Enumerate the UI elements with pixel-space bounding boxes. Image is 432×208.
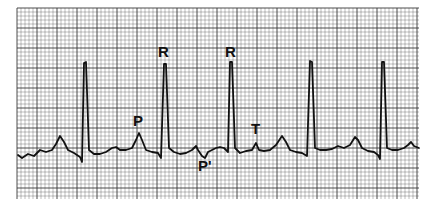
- label-p-prime: P': [198, 158, 212, 173]
- label-r-1: R: [158, 44, 169, 59]
- ecg-strip: [0, 0, 432, 208]
- label-r-2: R: [225, 44, 236, 59]
- ecg-grid: [17, 8, 419, 199]
- label-p: P: [133, 113, 143, 128]
- label-t: T: [251, 121, 260, 136]
